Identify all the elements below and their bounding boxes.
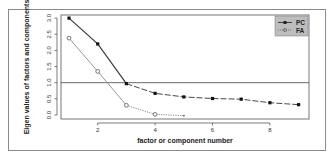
legend: PC FA bbox=[275, 16, 308, 36]
x-tick-label: 8 bbox=[268, 127, 272, 133]
y-tick-label: 0.5 bbox=[46, 94, 52, 103]
fa-point-marker bbox=[183, 115, 185, 116]
x-tick-label: 6 bbox=[211, 127, 215, 133]
fa-point-marker bbox=[153, 112, 157, 116]
y-tick-label: 1.0 bbox=[46, 78, 52, 87]
pc-point-marker bbox=[96, 42, 99, 45]
y-axis-title: Eigen values of factors and components bbox=[23, 0, 31, 134]
pc-point-marker bbox=[182, 95, 185, 98]
fa-point-marker bbox=[125, 103, 129, 107]
fa-point-marker bbox=[67, 36, 71, 40]
x-tick-label: 2 bbox=[96, 127, 100, 133]
y-tick-label: 1.5 bbox=[46, 62, 52, 71]
legend-label-pc: PC bbox=[296, 19, 305, 26]
y-tick-label: 3.0 bbox=[46, 13, 52, 22]
pc-point-marker bbox=[268, 101, 271, 104]
x-tick-label: 4 bbox=[153, 127, 157, 133]
pc-point-marker bbox=[154, 92, 157, 95]
y-tick-label: 0.0 bbox=[46, 110, 52, 119]
pc-point-marker bbox=[211, 97, 214, 100]
x-axis-title: factor or component number bbox=[137, 137, 233, 145]
pc-point-marker bbox=[297, 103, 300, 106]
legend-label-fa: FA bbox=[296, 27, 305, 34]
scree-plot: 0.00.51.01.52.02.53.0 2468 factor or com… bbox=[0, 0, 331, 158]
x-axis: 2468 bbox=[96, 123, 272, 133]
fa-point-marker bbox=[96, 69, 100, 73]
legend-pc-marker-icon bbox=[284, 21, 287, 24]
pc-point-marker bbox=[125, 82, 128, 85]
y-axis: 0.00.51.01.52.02.53.0 bbox=[46, 13, 57, 119]
pc-point-marker bbox=[240, 98, 243, 101]
pc-point-marker bbox=[67, 17, 70, 20]
y-tick-label: 2.0 bbox=[46, 46, 52, 55]
plot-area bbox=[61, 15, 309, 119]
y-tick-label: 2.5 bbox=[46, 29, 52, 38]
